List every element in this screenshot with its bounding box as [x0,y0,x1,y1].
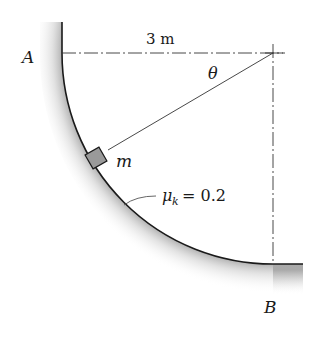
label-mass: m [116,151,132,171]
label-distance: 3 m [146,30,175,48]
diagram-canvas: A B 3 m θ m μ k = 0.2 [0,0,317,338]
radius-line [108,53,273,150]
label-friction-coefficient: μ k = 0.2 [162,186,226,208]
label-point-a: A [20,47,34,67]
svg-text:= 0.2: = 0.2 [182,186,226,205]
svg-text:μ: μ [162,186,172,205]
label-angle: θ [208,64,218,83]
surface-shading [40,22,303,300]
friction-leader-line [124,196,156,205]
svg-text:k: k [172,195,179,208]
label-point-b: B [263,297,277,317]
circular-track [62,22,303,264]
